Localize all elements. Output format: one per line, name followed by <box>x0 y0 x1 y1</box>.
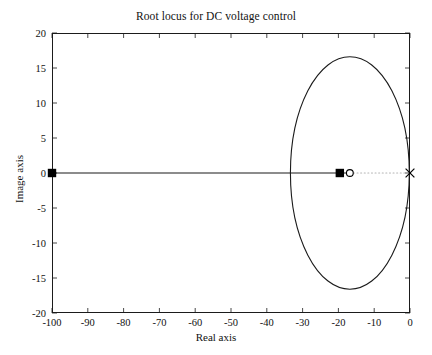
y-tick-label: -20 <box>6 308 46 319</box>
y-tick-label: 20 <box>6 28 46 39</box>
closed-loop-pole-left <box>48 169 56 177</box>
x-tick-label: -70 <box>152 317 166 328</box>
x-tick-label: -50 <box>224 317 238 328</box>
plot-canvas <box>0 0 432 355</box>
closed-loop-pole-right <box>336 169 344 177</box>
y-tick-label: 15 <box>6 63 46 74</box>
x-tick-label: -60 <box>188 317 202 328</box>
x-axis-label: Real axis <box>0 331 432 343</box>
y-tick-label: -5 <box>6 203 46 214</box>
open-loop-zero <box>346 170 353 177</box>
x-tick-label: -80 <box>117 317 131 328</box>
y-tick-label: 5 <box>6 133 46 144</box>
y-tick-label: -10 <box>6 238 46 249</box>
locus-curves <box>52 57 410 289</box>
x-tick-label: -90 <box>81 317 95 328</box>
y-axis-label: Image axis <box>13 134 25 224</box>
x-tick-label: -30 <box>296 317 310 328</box>
x-tick-label: -20 <box>331 317 345 328</box>
y-tick-label: 10 <box>6 98 46 109</box>
x-tick-label: -100 <box>42 317 61 328</box>
x-tick-label: -40 <box>260 317 274 328</box>
x-tick-label: 0 <box>407 317 412 328</box>
y-tick-label: 0 <box>6 168 46 179</box>
figure: Root locus for DC voltage control -100-9… <box>0 0 432 355</box>
y-tick-label: -15 <box>6 273 46 284</box>
x-tick-label: -10 <box>367 317 381 328</box>
